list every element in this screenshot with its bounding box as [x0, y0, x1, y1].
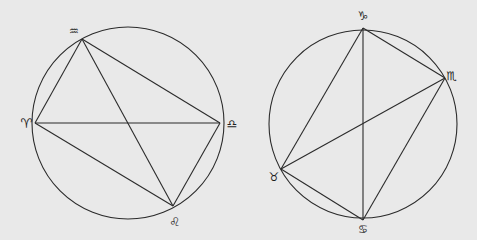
libra-glyph: ♎ [227, 117, 238, 131]
zodiac-chord-diagram: ♒ ♈ ♎ ♌ ♑ ♏ ♉ ♋ [0, 0, 477, 240]
chord-libra-leo [173, 123, 220, 206]
chord-taurus-cancer [281, 169, 363, 220]
cancer-glyph: ♋ [358, 223, 368, 236]
taurus-glyph: ♉ [269, 170, 280, 184]
chord-aquarius-libra [82, 39, 220, 123]
chord-aries-leo [35, 123, 173, 206]
scorpio-glyph: ♏ [447, 69, 458, 83]
aries-glyph: ♈ [20, 116, 32, 131]
chord-capricorn-scorpio [363, 28, 445, 78]
chord-capricorn-taurus [281, 28, 363, 169]
chord-scorpio-cancer [363, 78, 445, 220]
leo-glyph: ♌ [170, 215, 181, 229]
left-figure: ♒ ♈ ♎ ♌ [20, 25, 237, 229]
capricorn-glyph: ♑ [358, 9, 369, 23]
aquarius-glyph: ♒ [69, 25, 79, 38]
right-figure: ♑ ♏ ♉ ♋ [269, 9, 458, 236]
